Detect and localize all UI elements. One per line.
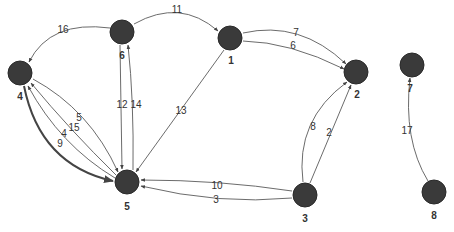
node-1[interactable]	[218, 26, 242, 50]
node-3[interactable]	[293, 183, 317, 207]
edge-label-2: 2	[326, 127, 332, 138]
node-label-7: 7	[407, 83, 413, 94]
edge-label-12: 12	[116, 99, 128, 110]
node-label-6: 6	[119, 50, 125, 61]
node-label-3: 3	[302, 213, 308, 224]
node-label-8: 8	[431, 210, 437, 221]
node-2[interactable]	[344, 60, 368, 84]
edge-label-14: 14	[130, 99, 142, 110]
node-8[interactable]	[422, 180, 446, 204]
edge-label-3: 3	[213, 194, 219, 205]
edge-label-6: 6	[290, 40, 296, 51]
edge-label-16: 16	[57, 24, 69, 35]
edge-6-1	[134, 13, 218, 31]
node-label-5: 5	[124, 201, 130, 212]
edge-label-8: 8	[310, 121, 316, 132]
edge-label-9: 9	[57, 138, 63, 149]
node-4[interactable]	[8, 61, 32, 85]
nodes	[8, 20, 446, 207]
edge-label-17: 17	[401, 125, 413, 136]
edge-3-2-a	[302, 82, 347, 182]
edge-label-13: 13	[175, 105, 187, 116]
node-label-1: 1	[228, 55, 234, 66]
edge-label-7: 7	[293, 27, 299, 38]
edge-6-4	[29, 27, 110, 62]
node-label-4: 4	[17, 91, 23, 102]
node-7[interactable]	[400, 53, 424, 77]
edge-label-11: 11	[172, 4, 183, 15]
node-6[interactable]	[110, 20, 134, 44]
edge-label-10: 10	[211, 180, 223, 191]
node-labels: 1 2 3 4 5 6 7 8	[17, 50, 437, 224]
node-label-2: 2	[354, 89, 360, 100]
edge-4-5-b	[24, 86, 113, 181]
node-5[interactable]	[115, 170, 139, 194]
edge-label-15: 15	[68, 122, 80, 133]
graph-canvas: 16 11 7 6 13 12 14 5 15 4 9 10 3 8 2 17 …	[0, 0, 454, 232]
